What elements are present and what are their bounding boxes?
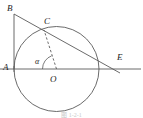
label-point-a: A	[3, 63, 9, 72]
angle-alpha-arc	[42, 56, 51, 69]
segment-oc-dashed	[44, 30, 57, 69]
label-angle-alpha: α	[35, 57, 39, 66]
label-point-c: C	[44, 17, 50, 26]
geometry-figure: B C E A α O 图 1-2-1	[0, 0, 143, 118]
figure-caption: 图 1-2-1	[0, 112, 143, 118]
segment-be	[14, 14, 120, 73]
label-point-b: B	[7, 4, 13, 13]
label-point-o: O	[50, 75, 57, 84]
label-point-e: E	[117, 53, 123, 62]
